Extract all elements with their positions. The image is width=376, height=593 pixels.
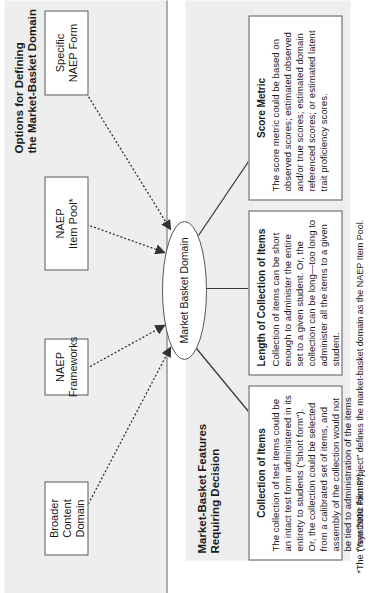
- diagram-stage: Options for Defining the Market-Basket D…: [0, 0, 376, 593]
- option-naep-frameworks: NAEP Frameworks: [44, 338, 88, 395]
- features-panel-title: Market-Basket Features Requiring Decisio…: [195, 423, 221, 553]
- footnote: *The “Year 2000 Pilot Project” defines t…: [354, 219, 364, 573]
- market-basket-domain-node: Market Basket Domain: [177, 231, 189, 349]
- feature-length-of-collection: Length of Collection of Items Collection…: [248, 210, 342, 375]
- feature-text: The score metric could be based on obser…: [269, 24, 329, 191]
- feature-text: The collection of test items could be an…: [269, 394, 365, 551]
- feature-collection-of-items: Collection of Items The collection of te…: [248, 385, 342, 560]
- feature-score-metric: Score Metric The score metric could be b…: [248, 15, 342, 200]
- feature-title: Length of Collection of Items: [255, 219, 267, 366]
- option-specific-naep-form: Specific NAEP Form: [44, 10, 88, 95]
- options-panel-title: Options for Defining the Market-Basket D…: [12, 9, 38, 153]
- feature-title: Collection of Items: [255, 394, 267, 551]
- option-broader-content-domain: Broader Content Domain: [44, 481, 88, 555]
- feature-text: Collection of items can be short enough …: [269, 219, 341, 366]
- option-naep-item-pool: NAEP Item Pool*: [44, 176, 88, 270]
- feature-title: Score Metric: [255, 24, 267, 191]
